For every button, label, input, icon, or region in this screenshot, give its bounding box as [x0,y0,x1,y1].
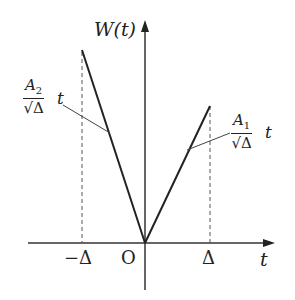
left-slope-var: t [57,88,64,108]
origin-label: O [121,247,136,268]
tick-pos-delta: Δ [202,247,215,268]
y-axis-label: W(t) [94,18,136,40]
left-branch-line [82,50,145,243]
tick-neg-delta: −Δ [64,247,92,268]
x-axis-arrow-icon [263,239,275,247]
right-slope-fraction: A1 √Δ [231,113,252,151]
left-leader-line [63,105,110,133]
x-axis-label: t [260,248,268,270]
right-branch-line [145,106,210,243]
y-axis-arrow-icon [141,20,149,32]
left-slope-fraction: A2 √Δ [23,78,44,116]
right-slope-var: t [265,122,272,142]
